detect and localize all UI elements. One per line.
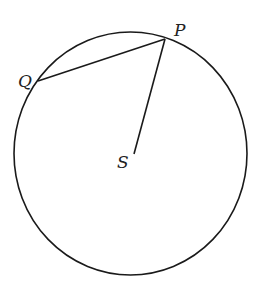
point-label-p: P xyxy=(173,20,186,40)
segment-sp xyxy=(134,39,165,154)
point-label-s: S xyxy=(117,152,129,172)
circle xyxy=(14,32,247,275)
point-label-q: Q xyxy=(18,71,32,91)
diagram-canvas: P Q S xyxy=(0,0,264,286)
